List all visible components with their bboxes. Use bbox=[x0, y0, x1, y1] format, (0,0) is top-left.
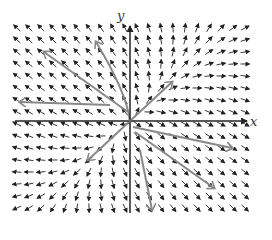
field-arrow bbox=[135, 180, 140, 188]
field-arrow bbox=[73, 110, 81, 115]
field-arrow bbox=[217, 63, 226, 65]
field-arrow bbox=[161, 60, 162, 69]
field-arrow bbox=[194, 181, 200, 187]
field-arrow bbox=[193, 62, 201, 67]
field-arrow bbox=[61, 148, 70, 149]
field-arrow bbox=[123, 192, 127, 200]
field-arrow bbox=[148, 24, 151, 33]
field-arrow bbox=[98, 36, 103, 43]
field-arrow bbox=[13, 98, 21, 103]
field-arrow bbox=[13, 110, 21, 114]
field-arrow bbox=[135, 72, 138, 80]
field-arrow bbox=[25, 110, 33, 114]
field-arrow bbox=[229, 122, 237, 126]
field-arrow bbox=[241, 169, 248, 175]
field-arrow bbox=[146, 168, 151, 175]
field-arrow bbox=[218, 205, 224, 211]
field-arrow bbox=[148, 60, 150, 69]
field-arrow bbox=[50, 204, 55, 211]
field-arrow bbox=[110, 84, 116, 91]
field-arrow bbox=[218, 193, 225, 199]
field-arrow bbox=[158, 157, 164, 164]
origin-point bbox=[128, 119, 132, 123]
field-arrow bbox=[37, 122, 45, 126]
field-arrow bbox=[50, 73, 57, 79]
field-arrow bbox=[181, 99, 190, 100]
field-arrow bbox=[230, 181, 237, 187]
field-arrow bbox=[160, 36, 161, 45]
field-arrow bbox=[62, 37, 68, 44]
field-arrow bbox=[49, 85, 56, 90]
field-arrow bbox=[160, 72, 162, 81]
field-arrow bbox=[218, 181, 225, 187]
field-arrow bbox=[101, 168, 102, 177]
field-arrow bbox=[25, 147, 34, 149]
field-arrow bbox=[74, 169, 81, 175]
field-arrow bbox=[74, 37, 80, 44]
field-arrow bbox=[25, 73, 32, 79]
field-arrow bbox=[25, 134, 33, 137]
trajectory-fast-ul-2 bbox=[20, 102, 110, 105]
field-arrow bbox=[217, 157, 224, 162]
trajectory-fast-lr bbox=[133, 127, 232, 148]
field-arrow bbox=[38, 205, 45, 211]
field-arrow bbox=[206, 205, 212, 211]
field-arrow bbox=[149, 84, 150, 93]
field-arrow bbox=[112, 192, 115, 201]
field-arrow bbox=[61, 110, 69, 115]
field-arrow bbox=[38, 49, 45, 55]
field-arrow bbox=[38, 61, 45, 67]
field-arrow bbox=[241, 39, 250, 42]
field-arrow bbox=[135, 204, 139, 212]
field-arrow bbox=[49, 110, 57, 115]
field-arrow bbox=[98, 97, 105, 103]
field-arrow bbox=[205, 63, 214, 66]
field-arrow bbox=[136, 84, 139, 93]
field-arrow bbox=[241, 51, 250, 52]
field-arrow bbox=[229, 51, 238, 53]
field-arrow bbox=[99, 156, 102, 164]
field-arrow bbox=[123, 24, 127, 32]
field-arrow bbox=[241, 87, 250, 89]
field-arrow bbox=[194, 49, 200, 56]
field-arrow bbox=[13, 134, 21, 137]
field-arrow bbox=[123, 156, 126, 164]
field-arrow bbox=[242, 181, 249, 187]
field-arrow bbox=[73, 135, 82, 137]
field-arrow bbox=[170, 145, 177, 151]
field-arrow bbox=[229, 99, 238, 102]
field-arrow bbox=[241, 110, 249, 114]
field-arrow bbox=[241, 146, 249, 151]
field-arrow bbox=[242, 193, 249, 199]
field-arrow bbox=[123, 72, 128, 80]
field-arrow bbox=[194, 193, 200, 199]
field-arrow bbox=[170, 181, 176, 188]
field-arrow bbox=[85, 147, 94, 149]
field-arrow bbox=[50, 37, 56, 43]
field-arrow bbox=[50, 49, 56, 55]
field-arrow bbox=[172, 48, 174, 57]
field-arrow bbox=[113, 156, 114, 165]
field-arrow bbox=[74, 85, 81, 91]
field-arrow bbox=[85, 135, 94, 136]
field-arrow bbox=[37, 194, 45, 199]
field-arrow bbox=[193, 134, 201, 139]
field-arrow bbox=[97, 122, 105, 125]
field-arrow bbox=[205, 122, 213, 126]
field-arrow bbox=[25, 206, 33, 211]
field-arrow bbox=[74, 61, 80, 67]
field-arrow bbox=[111, 24, 116, 32]
field-arrow bbox=[146, 156, 152, 163]
field-arrow bbox=[229, 87, 238, 89]
field-arrow bbox=[112, 168, 114, 177]
field-arrow bbox=[61, 97, 68, 102]
field-arrow bbox=[182, 61, 188, 68]
field-arrow bbox=[63, 192, 68, 200]
field-arrow bbox=[217, 37, 224, 42]
field-arrow bbox=[13, 122, 21, 126]
field-arrow bbox=[100, 204, 102, 213]
field-arrow bbox=[124, 132, 126, 141]
field-arrow bbox=[123, 84, 128, 92]
field-arrow bbox=[241, 75, 250, 76]
field-arrow bbox=[37, 160, 46, 161]
